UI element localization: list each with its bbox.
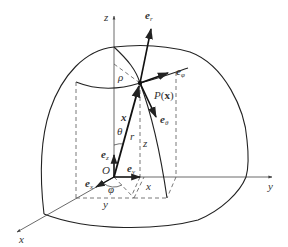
- x-axis-label: x: [19, 234, 24, 245]
- e-phi-label: eφ: [176, 66, 185, 79]
- phi-label: φ: [108, 184, 114, 195]
- e-theta-label: eθ: [160, 114, 168, 127]
- local-basis-vectors: [138, 29, 168, 117]
- e-z-label: ez: [101, 149, 109, 162]
- theta-label: θ: [117, 126, 122, 137]
- e-r-label: er: [145, 10, 153, 23]
- e-r-arrow: [140, 29, 151, 83]
- point-p: [138, 81, 142, 85]
- y-axis-label: y: [268, 181, 273, 192]
- e-x-label: ex: [85, 178, 93, 191]
- position-vector-label: x: [121, 112, 127, 123]
- x-coordinate-label: x: [146, 181, 151, 192]
- rho-label: ρ: [118, 72, 123, 83]
- e-phi-arrow: [140, 73, 168, 83]
- y-coordinate-label: y: [103, 199, 108, 210]
- point-label: P(x): [154, 90, 174, 101]
- z-axis-label: z: [104, 12, 108, 23]
- diagram-canvas: [0, 0, 288, 247]
- origin-label: O: [102, 165, 110, 176]
- spherical-coordinates-figure: z y x O P(x) er eφ eθ ez ey ex ρ x θ r z…: [0, 0, 288, 247]
- e-y-label: ey: [127, 163, 135, 176]
- theta-arc: [114, 144, 123, 145]
- z-coordinate-label: z: [143, 138, 147, 149]
- r-label: r: [130, 131, 134, 142]
